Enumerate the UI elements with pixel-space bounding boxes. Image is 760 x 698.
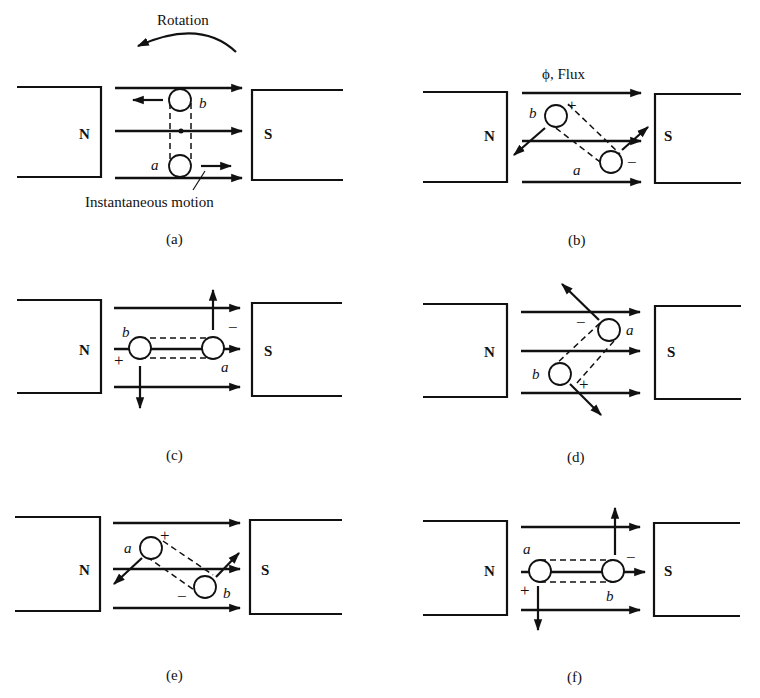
conductor-a (140, 537, 162, 559)
caption-f: (f) (567, 669, 582, 686)
caption-c: (c) (166, 447, 183, 464)
plus-sign: + (520, 581, 530, 600)
caption-d: (d) (567, 449, 585, 466)
minus-sign: − (576, 313, 586, 332)
panel-c: N S b a + − (c) (17, 290, 342, 464)
conductor-b-label: b (532, 366, 540, 382)
plus-sign: + (160, 526, 170, 545)
conductor-b-label: b (122, 324, 130, 340)
conductor-b (169, 89, 191, 111)
conductor-a-label: a (573, 162, 581, 178)
caption-e: (e) (166, 667, 183, 684)
north-pole-label: N (79, 562, 90, 578)
panel-f: N S a b + − (f) (423, 508, 740, 686)
panel-e: N S a b + − (e) (15, 517, 342, 684)
conductor-a (202, 337, 224, 359)
instantaneous-motion-label: Instantaneous motion (85, 194, 214, 210)
conductor-a-label: a (523, 541, 531, 557)
conductor-b (194, 576, 216, 598)
caption-a: (a) (166, 231, 183, 248)
conductor-b (129, 337, 151, 359)
motion-arrow-icon (622, 127, 648, 150)
conductor-a (600, 151, 622, 173)
panel-d: N S a b − + (d) (423, 284, 741, 466)
conductor-a (529, 560, 551, 582)
generator-rotation-diagram: Rotation N S b a Instantaneous motion (a… (0, 0, 760, 698)
south-pole-label: S (261, 562, 269, 578)
conductor-b (545, 105, 567, 127)
south-pole-label: S (264, 343, 272, 359)
conductor-b-label: b (199, 95, 207, 111)
conductor-b (602, 560, 624, 582)
south-pole-label: S (664, 128, 672, 144)
motion-arrow-icon (216, 553, 239, 577)
conductor-a-label: a (151, 157, 159, 173)
conductor-b (549, 363, 571, 385)
plus-sign: + (567, 96, 577, 115)
leader-line (193, 171, 205, 190)
north-pole-label: N (484, 563, 495, 579)
north-pole-label: N (79, 342, 90, 358)
minus-sign: − (626, 548, 636, 567)
south-pole-label: S (264, 126, 272, 142)
conductor-a-label: a (626, 322, 634, 338)
panel-b: ϕ, Flux N S b a + − (b) (423, 66, 741, 249)
flux-label: ϕ, Flux (542, 66, 585, 82)
minus-sign: − (228, 318, 238, 337)
north-pole-label: N (79, 126, 90, 142)
motion-arrow-icon (114, 558, 142, 584)
conductor-b-label: b (606, 588, 614, 604)
minus-sign: − (627, 153, 637, 172)
conductor-a-label: a (124, 540, 132, 556)
minus-sign: − (177, 587, 187, 606)
plus-sign: + (579, 375, 589, 394)
plus-sign: + (114, 351, 124, 370)
south-pole-label: S (664, 563, 672, 579)
caption-b: (b) (568, 232, 586, 249)
north-pole-label: N (484, 344, 495, 360)
rotation-arrow-icon (138, 33, 236, 52)
conductor-a (598, 319, 620, 341)
conductor-a-label: a (221, 359, 229, 375)
north-pole-label: N (484, 128, 495, 144)
conductor-b-label: b (529, 105, 537, 121)
conductor-b-label: b (223, 585, 231, 601)
rotation-axis (179, 129, 184, 134)
rotation-label: Rotation (157, 12, 209, 28)
panel-a: Rotation N S b a Instantaneous motion (a… (17, 12, 343, 248)
south-pole-label: S (667, 344, 675, 360)
conductor-a (169, 155, 191, 177)
